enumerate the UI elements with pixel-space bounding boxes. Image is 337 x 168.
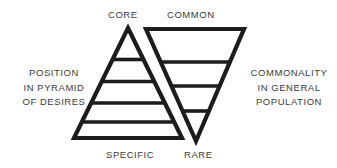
right-axis-line-2: IN GENERAL [243,81,335,96]
left-axis-line-1: POSITION [12,66,96,81]
label-core: CORE [108,8,138,21]
right-axis-line-3: POPULATION [243,95,335,110]
label-common: COMMON [167,8,215,21]
right-axis-caption: COMMONALITY IN GENERAL POPULATION [243,66,335,110]
diagram-canvas: CORE COMMON SPECIFIC RARE POSITION IN PY… [0,0,337,168]
left-axis-line-3: OF DESIRES [12,95,96,110]
label-specific: SPECIFIC [106,148,154,161]
left-axis-line-2: IN PYRAMID [12,81,96,96]
left-axis-caption: POSITION IN PYRAMID OF DESIRES [12,66,96,110]
label-rare: RARE [184,148,213,161]
right-axis-line-1: COMMONALITY [243,66,335,81]
inverted-pyramid-group [146,29,244,141]
